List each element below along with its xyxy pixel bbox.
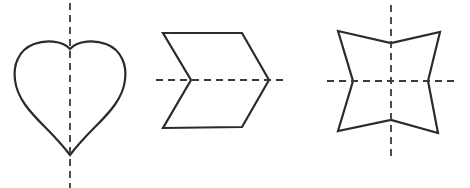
heart-group bbox=[15, 3, 126, 188]
symmetry-figure bbox=[0, 0, 470, 188]
star-square-group bbox=[327, 5, 457, 158]
star-square-shape bbox=[338, 31, 440, 133]
chevron-group bbox=[156, 33, 288, 128]
